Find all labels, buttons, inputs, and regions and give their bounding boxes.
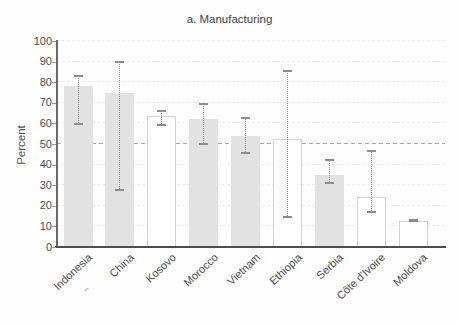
y-tick-label-80: 80	[14, 76, 52, 89]
error-bar-serbia	[325, 159, 334, 184]
bar-serbia	[315, 175, 344, 247]
y-tick-label-10: 10	[14, 220, 52, 233]
error-bar-china	[115, 61, 124, 192]
error-bar-line	[329, 159, 330, 184]
y-tick-mark-70	[52, 103, 56, 104]
error-bar-line	[119, 61, 120, 192]
error-bar-line	[287, 70, 288, 218]
error-bar-morocco	[199, 103, 208, 145]
error-bar-cap-bottom	[199, 143, 208, 145]
error-bar-vietnam	[241, 117, 250, 154]
error-bar-line	[245, 117, 246, 154]
error-bar-cap-top	[367, 150, 376, 152]
y-tick-label-90: 90	[14, 55, 52, 68]
y-tick-label-40: 40	[14, 158, 52, 171]
y-axis-line	[56, 40, 58, 248]
bar-kosovo	[147, 116, 176, 247]
x-axis-line	[55, 246, 446, 248]
error-bar-cap-bottom	[157, 124, 166, 126]
chart-title: a. Manufacturing	[0, 13, 459, 25]
plot-area	[57, 41, 445, 247]
y-tick-label-0: 0	[14, 241, 52, 254]
y-tick-mark-90	[52, 62, 56, 63]
error-bar-cap-bottom	[325, 182, 334, 184]
manufacturing-bar-chart-figure: a. Manufacturing Percent 010203040506070…	[0, 0, 459, 324]
y-tick-mark-80	[52, 82, 56, 83]
y-tick-label-50: 50	[14, 138, 52, 151]
error-bar-ethiopia	[283, 70, 292, 218]
error-bar-c-te-d-ivoire	[367, 150, 376, 213]
error-bar-cap-bottom	[115, 189, 124, 191]
y-tick-mark-50	[52, 144, 56, 145]
y-tick-mark-60	[52, 123, 56, 124]
y-tick-label-70: 70	[14, 96, 52, 109]
error-bar-line	[371, 150, 372, 213]
error-bar-cap-top	[241, 117, 250, 119]
error-bar-cap-bottom	[241, 152, 250, 154]
error-bar-cap-bottom	[409, 220, 418, 222]
y-tick-mark-10	[52, 226, 56, 227]
error-bar-cap-top	[115, 61, 124, 63]
error-bar-cap-top	[74, 75, 83, 77]
error-bar-indonesia	[74, 75, 83, 125]
y-tick-label-60: 60	[14, 117, 52, 130]
gridline-100	[57, 40, 445, 41]
error-bar-cap-bottom	[367, 211, 376, 213]
error-bar-cap-bottom	[74, 123, 83, 125]
y-tick-label-20: 20	[14, 199, 52, 212]
error-bar-cap-top	[199, 103, 208, 105]
y-tick-mark-40	[52, 165, 56, 166]
y-tick-label-30: 30	[14, 179, 52, 192]
x-label-indonesia: Indonesia	[20, 251, 94, 321]
error-bar-cap-top	[325, 159, 334, 161]
error-bar-cap-bottom	[283, 216, 292, 218]
y-tick-label-100: 100	[14, 35, 52, 48]
y-tick-mark-0	[52, 247, 56, 248]
error-bar-cap-top	[283, 70, 292, 72]
bar-moldova	[399, 221, 428, 247]
error-bar-line	[203, 103, 204, 145]
error-bar-kosovo	[157, 110, 166, 126]
y-tick-mark-100	[52, 41, 56, 42]
error-bar-line	[78, 75, 79, 125]
error-bar-moldova	[409, 219, 418, 222]
y-tick-mark-20	[52, 206, 56, 207]
error-bar-cap-top	[157, 110, 166, 112]
y-tick-mark-30	[52, 185, 56, 186]
